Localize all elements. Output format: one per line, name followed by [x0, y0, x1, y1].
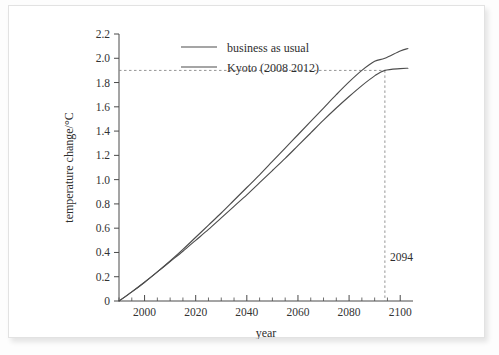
x-tick-label: 2020 — [184, 306, 207, 318]
x-tick-label: 2080 — [338, 306, 361, 318]
series-line-1 — [119, 49, 408, 301]
chart-canvas: 00.20.40.60.81.01.21.41.61.82.02.2 20002… — [9, 6, 486, 339]
y-tick-label: 1.2 — [96, 149, 111, 161]
annotation-label: 2094 — [390, 251, 413, 263]
y-tick-label: 0.4 — [96, 246, 111, 258]
chart-annotations: 2094 — [390, 251, 413, 263]
y-axis: 00.20.40.60.81.01.21.41.61.82.02.2 — [96, 28, 119, 307]
guide-lines — [119, 70, 385, 301]
y-tick-label: 0.6 — [96, 222, 111, 234]
y-tick-label: 1.6 — [96, 101, 111, 113]
y-tick-label: 0 — [104, 295, 110, 307]
x-axis: 200020202040206020802100 — [119, 295, 413, 318]
x-tick-label: 2000 — [133, 306, 156, 318]
axis-titles: yeartemperature change/°C — [62, 112, 276, 339]
y-axis-title: temperature change/°C — [62, 112, 76, 222]
legend-label-2: Kyoto (2008 2012) — [227, 61, 319, 75]
x-tick-label: 2100 — [389, 306, 412, 318]
chart-legend: business as usualKyoto (2008 2012) — [181, 41, 319, 75]
legend-label-1: business as usual — [227, 41, 310, 55]
y-tick-label: 1.0 — [96, 174, 111, 186]
y-tick-label: 2.0 — [96, 52, 111, 64]
y-tick-label: 1.8 — [96, 77, 111, 89]
x-tick-label: 2040 — [235, 306, 258, 318]
y-tick-label: 0.8 — [96, 198, 111, 210]
figure-card: 00.20.40.60.81.01.21.41.61.82.02.2 20002… — [0, 0, 499, 355]
series-line-2 — [119, 68, 408, 301]
figure-page: 00.20.40.60.81.01.21.41.61.82.02.2 20002… — [8, 5, 485, 338]
y-tick-label: 2.2 — [96, 28, 111, 40]
data-series — [119, 49, 408, 301]
x-axis-title: year — [256, 326, 277, 339]
y-tick-label: 1.4 — [96, 125, 111, 137]
x-tick-label: 2060 — [286, 306, 309, 318]
y-tick-label: 0.2 — [96, 271, 111, 283]
